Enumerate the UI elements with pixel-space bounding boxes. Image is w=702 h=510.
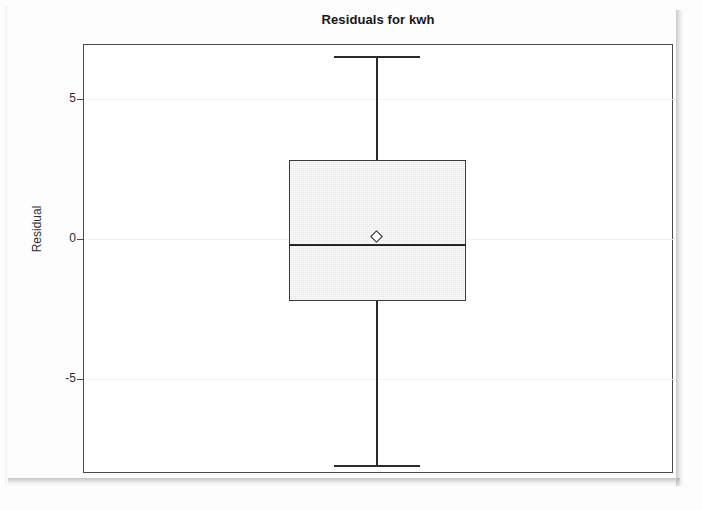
lower-whisker-cap (334, 465, 420, 467)
lower-whisker-line (376, 301, 378, 466)
boxplot-kwh (84, 45, 674, 474)
y-tick-mark-0 (77, 239, 84, 240)
y-tick-mark-neg5 (77, 379, 84, 380)
y-tick-mark-5 (77, 99, 84, 100)
scan-shadow-artifact-bottom (8, 478, 680, 487)
scan-edge-artifact-left (4, 6, 7, 484)
chart-title: Residuals for kwh (83, 12, 673, 27)
y-axis-tick-group: 5 0 -5 (32, 44, 76, 473)
plot-area-frame (83, 44, 673, 473)
median-line (289, 244, 466, 246)
y-tick-label: 0 (36, 231, 76, 245)
upper-whisker-line (376, 56, 378, 161)
scanned-page-canvas: Residuals for kwh Residual 5 0 -5 (0, 0, 702, 510)
scan-shadow-artifact-right (676, 10, 685, 486)
y-tick-label: -5 (36, 371, 76, 385)
y-tick-label: 5 (36, 91, 76, 105)
